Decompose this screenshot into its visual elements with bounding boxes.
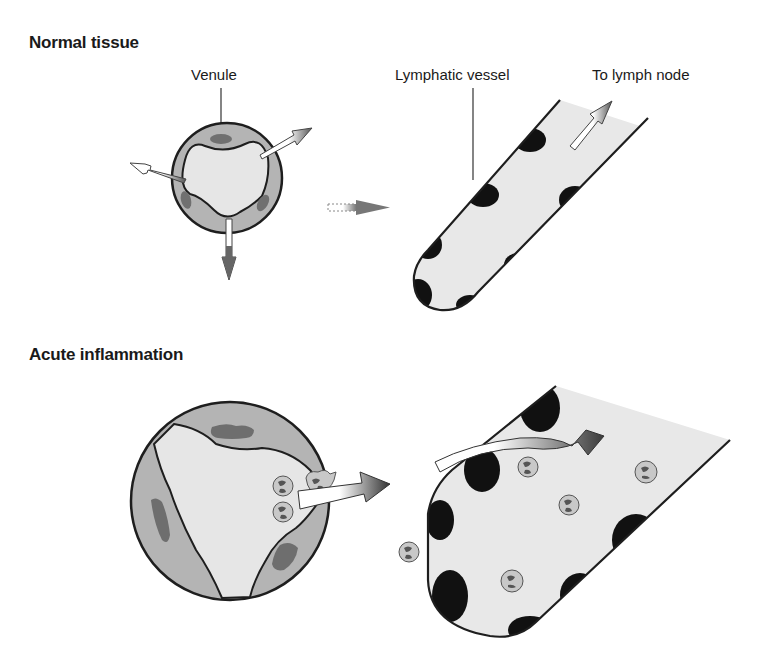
neutrophil-icon xyxy=(399,542,419,562)
nucleus-icon xyxy=(211,424,254,439)
venule-normal xyxy=(172,123,282,233)
neutrophil-icon xyxy=(273,502,293,522)
neutrophil-icon xyxy=(518,457,538,477)
lymphatic-vessel-normal xyxy=(404,100,648,315)
dashed-flow-arrow-icon xyxy=(328,200,390,215)
diagram-canvas xyxy=(0,0,761,660)
neutrophil-icon xyxy=(501,570,523,592)
neutrophil-icon xyxy=(635,461,657,483)
neutrophil-icon xyxy=(559,495,579,515)
lymphatic-vessel-inflamed xyxy=(426,384,730,644)
neutrophil-icon xyxy=(273,476,293,496)
nucleus-icon xyxy=(210,134,232,144)
